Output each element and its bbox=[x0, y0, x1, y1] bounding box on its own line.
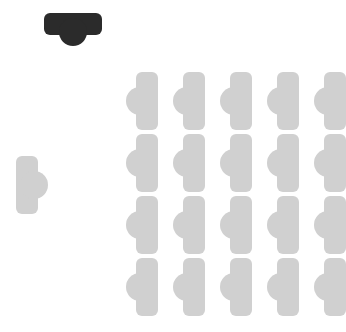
grid-shape-bar bbox=[324, 134, 346, 192]
grid-shape-bar bbox=[324, 72, 346, 130]
grid-shape-glyph bbox=[126, 72, 158, 130]
grid-shape-bar bbox=[183, 196, 205, 254]
shape-canvas bbox=[0, 0, 346, 332]
sample-shape[interactable] bbox=[16, 156, 48, 214]
grid-shape-glyph bbox=[314, 72, 346, 130]
grid-shape-bar bbox=[324, 196, 346, 254]
grid-shape-glyph bbox=[267, 258, 299, 316]
grid-shape-glyph bbox=[173, 258, 205, 316]
grid-shape-glyph bbox=[267, 196, 299, 254]
grid-shape-r1c3[interactable] bbox=[220, 72, 252, 134]
grid-shape-r2c4[interactable] bbox=[267, 134, 299, 196]
grid-shape-bar bbox=[183, 134, 205, 192]
grid-shape-r3c3[interactable] bbox=[220, 196, 252, 258]
grid-shape-bar bbox=[277, 134, 299, 192]
grid-shape-bar bbox=[136, 258, 158, 316]
grid-shape-glyph bbox=[126, 258, 158, 316]
grid-shape-glyph bbox=[314, 134, 346, 192]
grid-shape-r4c1[interactable] bbox=[126, 258, 158, 320]
grid-shape-bar bbox=[183, 72, 205, 130]
grid-shape-r2c2[interactable] bbox=[173, 134, 205, 196]
grid-shape-bar bbox=[230, 72, 252, 130]
grid-shape-r4c2[interactable] bbox=[173, 258, 205, 320]
grid-shape-glyph bbox=[220, 258, 252, 316]
grid-shape-r1c5[interactable] bbox=[314, 72, 346, 134]
sample-bump bbox=[20, 171, 48, 199]
grid-shape-bar bbox=[277, 72, 299, 130]
grid-shape-bar bbox=[136, 72, 158, 130]
grid-shape-r3c2[interactable] bbox=[173, 196, 205, 258]
sample-shape-body bbox=[16, 156, 48, 214]
grid-shape-r4c5[interactable] bbox=[314, 258, 346, 320]
grid-shape-r4c4[interactable] bbox=[267, 258, 299, 320]
marker-shape-body bbox=[44, 13, 102, 46]
grid-shape-bar bbox=[277, 258, 299, 316]
grid-shape-r2c1[interactable] bbox=[126, 134, 158, 196]
grid-shape-glyph bbox=[314, 258, 346, 316]
marker-bump bbox=[59, 18, 87, 46]
grid-shape-glyph bbox=[173, 72, 205, 130]
grid-shape-r3c1[interactable] bbox=[126, 196, 158, 258]
grid-shape-glyph bbox=[126, 196, 158, 254]
grid-shape-r2c5[interactable] bbox=[314, 134, 346, 196]
grid-shape-glyph bbox=[126, 134, 158, 192]
grid-shape-glyph bbox=[173, 134, 205, 192]
grid-shape-glyph bbox=[220, 134, 252, 192]
grid-shape-r1c2[interactable] bbox=[173, 72, 205, 134]
grid-shape-r2c3[interactable] bbox=[220, 134, 252, 196]
grid-shape-glyph bbox=[173, 196, 205, 254]
grid-shape-glyph bbox=[267, 134, 299, 192]
sample-shape-glyph bbox=[16, 156, 48, 214]
grid-shape-bar bbox=[183, 258, 205, 316]
grid-shape-bar bbox=[324, 258, 346, 316]
grid-shape-bar bbox=[136, 196, 158, 254]
marker-shape-glyph bbox=[44, 13, 102, 49]
grid-shape-r4c3[interactable] bbox=[220, 258, 252, 320]
grid-shape-bar bbox=[230, 196, 252, 254]
grid-shape-glyph bbox=[220, 196, 252, 254]
grid-shape-r3c4[interactable] bbox=[267, 196, 299, 258]
grid-shape-bar bbox=[230, 258, 252, 316]
grid-shape-r1c4[interactable] bbox=[267, 72, 299, 134]
grid-shape-bar bbox=[230, 134, 252, 192]
grid-shape-glyph bbox=[314, 196, 346, 254]
grid-shape-r3c5[interactable] bbox=[314, 196, 346, 258]
grid-shape-r1c1[interactable] bbox=[126, 72, 158, 134]
grid-shape-glyph bbox=[220, 72, 252, 130]
grid-shape-bar bbox=[277, 196, 299, 254]
rotated-marker-shape[interactable] bbox=[44, 13, 102, 49]
grid-shape-bar bbox=[136, 134, 158, 192]
grid-shape-glyph bbox=[267, 72, 299, 130]
